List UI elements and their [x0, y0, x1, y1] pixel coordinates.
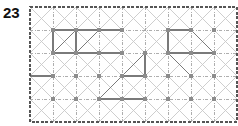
lattice-node [166, 28, 169, 31]
lattice-node [97, 28, 100, 31]
lattice-node [120, 51, 123, 54]
lattice-node [212, 28, 215, 31]
lattice-node [166, 97, 169, 100]
lattice-node [212, 97, 215, 100]
lattice-node [51, 28, 54, 31]
figure-container: 23 [0, 0, 238, 126]
lattice-node [51, 51, 54, 54]
lattice-node [74, 97, 77, 100]
lattice-node [189, 51, 192, 54]
lattice-node [120, 28, 123, 31]
lattice-node [143, 51, 146, 54]
lattice-node [189, 28, 192, 31]
lattice-node [189, 74, 192, 77]
lattice-node [51, 97, 54, 100]
lattice-node [74, 28, 77, 31]
lattice-node [97, 51, 100, 54]
lattice-node [120, 74, 123, 77]
lattice-node [74, 74, 77, 77]
lattice-diagram [0, 0, 238, 126]
lattice-node [143, 74, 146, 77]
lattice-node [74, 51, 77, 54]
lattice-node [212, 74, 215, 77]
lattice-node [166, 74, 169, 77]
lattice-node [97, 97, 100, 100]
lattice-node [143, 97, 146, 100]
lattice-node [120, 97, 123, 100]
lattice-node [166, 51, 169, 54]
lattice-node [97, 74, 100, 77]
lattice-node [212, 51, 215, 54]
lattice-node [189, 97, 192, 100]
lattice-node [51, 74, 54, 77]
